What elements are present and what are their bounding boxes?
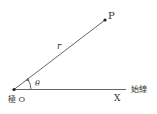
- axis-x-label: X: [114, 93, 121, 103]
- angle-label: θ: [35, 79, 40, 88]
- polar-diagram: P r θ 極 O X 始線: [0, 0, 157, 114]
- point-p-label: P: [108, 10, 115, 21]
- point-p: [103, 18, 106, 21]
- pole-label: 極 O: [8, 94, 26, 104]
- pole-point: [12, 88, 15, 91]
- initial-line-label: 始線: [131, 84, 147, 94]
- radius-label: r: [57, 41, 62, 51]
